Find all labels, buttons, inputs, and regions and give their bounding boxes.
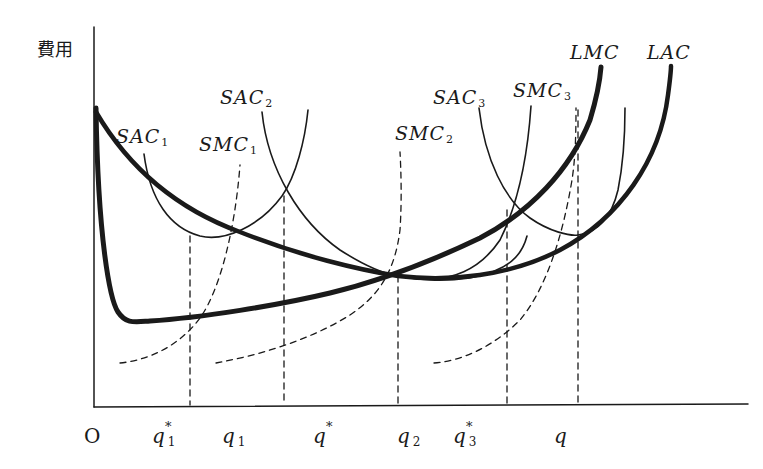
sac3-curve [479,108,625,235]
tick-q-star: q* [313,426,326,446]
tick-q3-star: q3* [453,426,476,448]
diagram-canvas [0,0,763,469]
sac2-label: SAC2 [220,88,273,109]
lac-curve [96,66,671,278]
smc3-dashed-curve [434,108,576,363]
tick-q2: q2 [397,426,420,448]
smc1-curve [120,165,240,363]
lac-label: LAC [647,43,691,62]
smc3-label: SMC3 [513,81,572,102]
tick-q1-star: q1* [152,426,175,448]
sac1-label: SAC1 [116,127,169,148]
x-axis [94,404,748,407]
sac3-label: SAC3 [433,88,486,109]
smc2-label: SMC2 [395,124,454,145]
y-axis-label: 費用 [37,41,73,59]
smc1-label: SMC1 [199,135,258,156]
tick-q1: q1 [222,426,245,448]
x-axis-label: q [554,426,567,446]
lmc-label: LMC [570,43,620,62]
cost-curves-diagram: 費用 SAC1 SMC1 SAC2 SMC2 SAC3 SMC3 LMC LAC… [0,0,763,469]
origin-label: O [84,426,100,446]
